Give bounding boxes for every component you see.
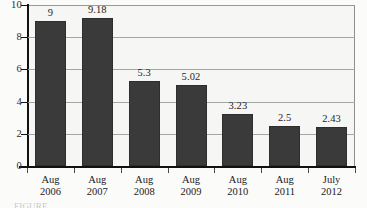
bar-value-label: 2.43 (307, 114, 357, 125)
bar (269, 126, 300, 166)
y-axis-tick-label: 4 (17, 97, 22, 108)
bar-value-label: 5.02 (166, 72, 216, 83)
y-axis-tick-mark (21, 5, 28, 6)
category-line-2: 2007 (74, 186, 121, 198)
category-line-2: 2011 (261, 186, 308, 198)
bar-value-label: 9.18 (72, 5, 122, 16)
x-axis-tick-mark (308, 168, 309, 173)
x-axis-tick-mark (74, 168, 75, 173)
y-axis-tick-mark (21, 166, 28, 167)
y-axis-line (27, 4, 29, 168)
category-line-1: Aug (135, 174, 153, 185)
bar (35, 21, 66, 166)
x-axis-tick-mark (355, 168, 356, 173)
y-axis-tick-label: 8 (17, 32, 22, 43)
category-line-2: 2010 (214, 186, 261, 198)
category-line-1: July (323, 174, 341, 185)
y-axis-tick-label: 2 (17, 129, 22, 140)
y-axis-tick-label: 0 (17, 161, 22, 172)
category-line-1: Aug (229, 174, 247, 185)
category-line-1: Aug (88, 174, 106, 185)
bar-value-label: 2.5 (260, 113, 310, 124)
bar (176, 85, 207, 166)
x-axis-category-label: Aug2009 (168, 174, 215, 197)
x-axis-tick-mark (168, 168, 169, 173)
x-axis-tick-mark (121, 168, 122, 173)
category-line-2: 2009 (168, 186, 215, 198)
bar-value-label: 9 (25, 8, 75, 19)
bar (316, 127, 347, 166)
x-axis-line (19, 166, 356, 168)
bar-slot (82, 5, 113, 166)
category-line-2: 2008 (121, 186, 168, 198)
x-axis-category-label: Aug2006 (27, 174, 74, 197)
category-line-2: 2012 (308, 186, 355, 198)
bar (129, 81, 160, 166)
y-axis-tick-mark (21, 69, 28, 70)
x-axis-tick-mark (27, 168, 28, 173)
y-axis-tick-label: 10 (11, 0, 22, 11)
y-axis-tick-label: 6 (17, 64, 22, 75)
bar-slot (222, 5, 253, 166)
bar-slot (269, 5, 300, 166)
bar-value-label: 5.3 (119, 68, 169, 79)
bar-slot (35, 5, 66, 166)
bar-chart-figure: 1086420 99.185.35.023.232.52.43 Aug2006A… (0, 0, 367, 208)
x-axis-category-label: Aug2007 (74, 174, 121, 197)
bar-value-label: 3.23 (213, 101, 263, 112)
y-axis-tick-mark (21, 134, 28, 135)
figure-caption: FIGURE (14, 201, 354, 208)
x-axis-category-label: Aug2010 (214, 174, 261, 197)
y-axis-tick-mark (21, 102, 28, 103)
y-axis-tick-mark (21, 37, 28, 38)
bar-slot (316, 5, 347, 166)
category-line-1: Aug (41, 174, 59, 185)
x-axis-tick-mark (261, 168, 262, 173)
bar-slot (129, 5, 160, 166)
x-axis-category-label: Aug2008 (121, 174, 168, 197)
x-axis-tick-mark (214, 168, 215, 173)
x-axis-category-label: Aug2011 (261, 174, 308, 197)
bar (222, 114, 253, 166)
category-line-1: Aug (182, 174, 200, 185)
bar-slot (176, 5, 207, 166)
category-line-2: 2006 (27, 186, 74, 198)
x-axis-category-label: July2012 (308, 174, 355, 197)
category-line-1: Aug (276, 174, 294, 185)
bar (82, 18, 113, 166)
